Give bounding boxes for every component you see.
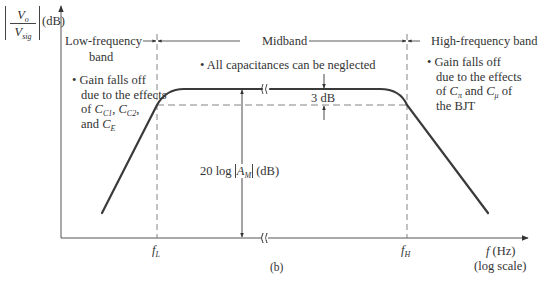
figure-caption: (b) [270,260,283,274]
high-band-note: • Gain falls off due to the effects of C… [427,55,522,113]
midband-title: Midband [260,34,309,48]
x-axis-scale-note: (log scale) [474,259,526,273]
x-axis [61,233,528,243]
tick-fl: fL [152,243,160,257]
3db-label: 3 dB [311,91,335,105]
low-band-title-line2: band [89,50,113,64]
midband-note: • All capacitances can be neglected [200,58,375,72]
y-axis-unit: (dB) [42,14,65,28]
midband-gain-label: 20 log AM (dB) [200,164,279,178]
low-band-title-line1: Low-frequency [65,34,142,48]
tick-fh: fH [401,243,410,257]
x-axis-label: f (Hz) [486,244,516,258]
high-band-title: High-frequency band [431,34,538,48]
low-band-note: • Gain falls off due to the effects of C… [72,73,167,131]
